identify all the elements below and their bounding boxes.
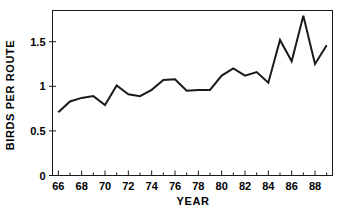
line-chart: 00.511.5 666870727476788082848688 YEAR B…: [0, 0, 347, 210]
x-tick-label: 86: [286, 180, 298, 192]
y-axis-tick-labels: 00.511.5: [30, 36, 45, 182]
x-axis-title: YEAR: [177, 195, 210, 207]
x-tick-label: 78: [192, 180, 204, 192]
chart-container: 00.511.5 666870727476788082848688 YEAR B…: [0, 0, 347, 210]
x-tick-label: 70: [99, 180, 111, 192]
x-axis-ticks: [58, 171, 326, 176]
y-tick-label: 0.5: [30, 125, 45, 137]
data-series-group: [58, 16, 326, 112]
series-line-birds-per-route: [58, 16, 326, 112]
x-tick-label: 80: [216, 180, 228, 192]
x-tick-label: 74: [146, 180, 159, 192]
plot-border: [53, 11, 333, 176]
y-tick-label: 0: [39, 170, 45, 182]
x-tick-label: 76: [169, 180, 181, 192]
x-tick-label: 84: [262, 180, 275, 192]
y-tick-label: 1: [39, 80, 45, 92]
y-axis-title: BIRDS PER ROUTE: [4, 40, 16, 150]
y-tick-label: 1.5: [30, 36, 45, 48]
x-tick-label: 68: [76, 180, 88, 192]
plot-frame: [53, 11, 333, 176]
x-tick-label: 82: [239, 180, 251, 192]
x-axis-tick-labels: 666870727476788082848688: [52, 180, 321, 192]
x-tick-label: 88: [309, 180, 321, 192]
x-tick-label: 72: [122, 180, 134, 192]
x-tick-label: 66: [52, 180, 64, 192]
